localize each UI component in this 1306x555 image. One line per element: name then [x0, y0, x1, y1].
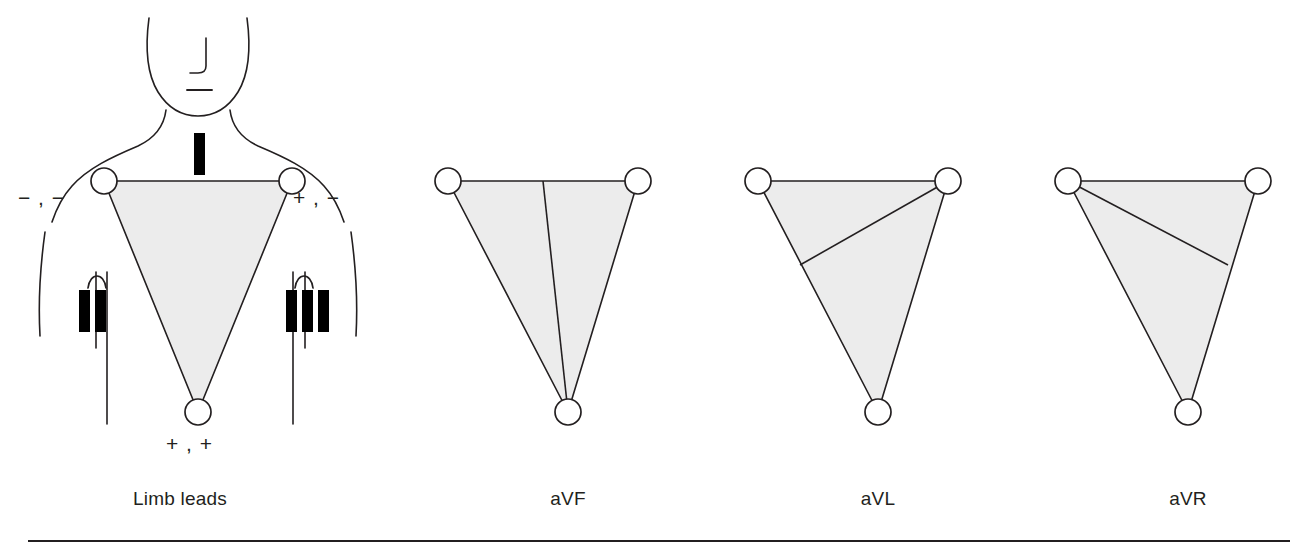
- outer-arm-line-right: [351, 232, 357, 336]
- electrode-left-arm[interactable]: [91, 168, 117, 194]
- electrode-left-arm-avf[interactable]: [435, 168, 461, 194]
- caption-limb-leads: Limb leads: [100, 488, 260, 510]
- nose-icon: [190, 38, 206, 73]
- einthoven-triangle-avl: [758, 181, 948, 412]
- nipple-arc-left: [88, 276, 106, 288]
- avr-panel: [1055, 168, 1271, 425]
- einthoven-triangle-avf: [448, 181, 638, 412]
- polarity-left-arm: − , −: [18, 186, 65, 210]
- electrode-left-arm-avr[interactable]: [1055, 168, 1081, 194]
- caption-avl: aVL: [798, 488, 958, 510]
- einthoven-triangle-avr: [1068, 181, 1258, 412]
- electrode-right-arm-avl[interactable]: [935, 168, 961, 194]
- caption-avf: aVF: [488, 488, 648, 510]
- polarity-leg: + , +: [166, 432, 213, 456]
- avl-panel: [745, 168, 961, 425]
- electrode-leg-avf[interactable]: [555, 399, 581, 425]
- electrode-right-arm-avf[interactable]: [625, 168, 651, 194]
- polarity-right-arm: + , −: [293, 186, 340, 210]
- torso-panel: [39, 18, 357, 425]
- electrode-leg-avr[interactable]: [1175, 399, 1201, 425]
- electrode-leg-avl[interactable]: [865, 399, 891, 425]
- electrode-left-arm-avl[interactable]: [745, 168, 771, 194]
- outer-arm-line-left: [39, 232, 45, 336]
- lead-II-marker: [79, 290, 106, 332]
- lead-I-marker: [194, 133, 205, 175]
- nipple-arc-right: [295, 276, 313, 288]
- lead-III-marker: [286, 290, 329, 332]
- electrode-right-arm-avr[interactable]: [1245, 168, 1271, 194]
- head-outline: [147, 18, 249, 116]
- avf-panel: [435, 168, 651, 425]
- electrode-leg[interactable]: [185, 399, 211, 425]
- ecg-limb-leads-figure: [0, 0, 1306, 555]
- einthoven-triangle-torso: [104, 181, 292, 412]
- caption-avr: aVR: [1108, 488, 1268, 510]
